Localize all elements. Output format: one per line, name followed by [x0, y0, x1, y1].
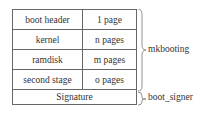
boot-signer-label: boot_signer	[148, 92, 193, 102]
signature-row: Signature	[13, 90, 136, 104]
section-size: n pages	[83, 30, 136, 49]
table-row: boot header 1 page	[13, 10, 136, 30]
section-size: 1 page	[83, 10, 136, 29]
section-name: kernel	[13, 30, 83, 49]
mkbooting-label: mkbooting	[148, 44, 189, 54]
signature-label: Signature	[13, 90, 136, 104]
table-row: kernel n pages	[13, 30, 136, 50]
section-size: o pages	[83, 70, 136, 89]
table-row: second stage o pages	[13, 70, 136, 90]
section-name: ramdisk	[13, 50, 83, 69]
section-name: boot header	[13, 10, 83, 29]
section-name: second stage	[13, 70, 83, 89]
section-size: m pages	[83, 50, 136, 69]
boot-image-layout-table: boot header 1 page kernel n pages ramdis…	[12, 9, 137, 105]
table-row: ramdisk m pages	[13, 50, 136, 70]
right-brace-icon	[137, 9, 147, 106]
